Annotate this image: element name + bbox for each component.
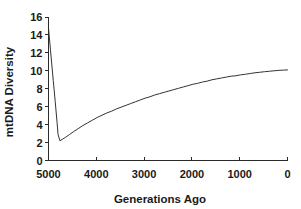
x-tick-label: 0 (284, 168, 290, 180)
y-tick-label: 2 (36, 137, 42, 149)
chart-figure: 0246810121416 500040003000200010000 Gene… (0, 0, 301, 209)
y-tick-label: 14 (30, 29, 43, 41)
x-tick-label: 4000 (84, 168, 108, 180)
y-tick-label: 4 (36, 119, 43, 131)
x-tick-label: 3000 (132, 168, 156, 180)
x-axis-title: Generations Ago (114, 193, 206, 205)
x-tick-label: 1000 (227, 168, 251, 180)
y-tick-label: 8 (36, 83, 42, 95)
y-tick-label: 6 (36, 101, 42, 113)
y-tick-label: 12 (30, 47, 42, 59)
x-tick-label: 5000 (36, 168, 60, 180)
y-tick-label: 16 (30, 11, 42, 23)
y-tick-label: 10 (30, 65, 42, 77)
y-axis-title: mtDNA Diversity (3, 46, 15, 137)
y-tick-label: 0 (36, 155, 42, 167)
x-tick-label: 2000 (180, 168, 204, 180)
